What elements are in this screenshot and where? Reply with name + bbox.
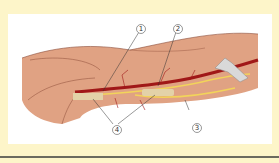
svg-text:4: 4	[115, 126, 120, 134]
callout-3: 3	[193, 124, 202, 133]
tendon-patch	[73, 93, 103, 100]
callout-4: 4	[113, 126, 122, 135]
svg-text:3: 3	[195, 124, 199, 132]
muscle-shape	[22, 33, 258, 124]
arm-illustration: 1 2 3 4	[0, 0, 279, 163]
callout-2: 2	[174, 25, 183, 34]
bottom-divider	[0, 156, 279, 158]
svg-text:2: 2	[176, 25, 180, 33]
tendon-patch	[142, 89, 174, 96]
callout-1: 1	[137, 25, 146, 34]
svg-text:1: 1	[139, 25, 143, 33]
